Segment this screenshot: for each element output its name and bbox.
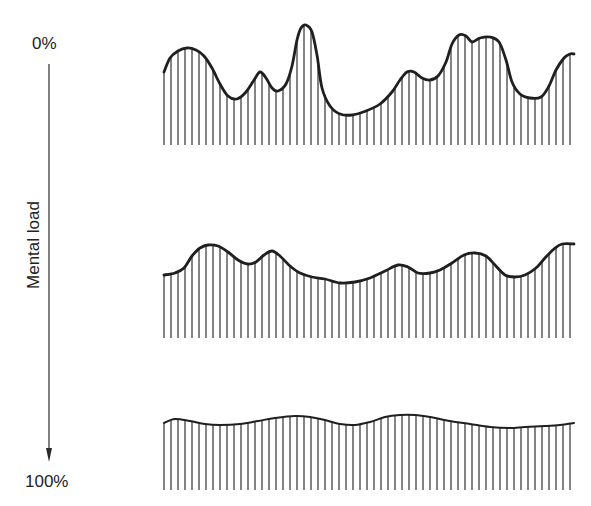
signal-curve [164, 244, 574, 284]
signal-curve [164, 25, 574, 115]
panel-medium-load [164, 244, 574, 338]
mental-load-diagram [0, 0, 591, 506]
panel-high-load [164, 415, 574, 490]
arrow-down-icon [46, 448, 52, 462]
signal-curve [164, 415, 574, 428]
panel-low-load [164, 25, 574, 145]
signal-panels [164, 25, 574, 490]
axis-arrow [46, 64, 52, 462]
